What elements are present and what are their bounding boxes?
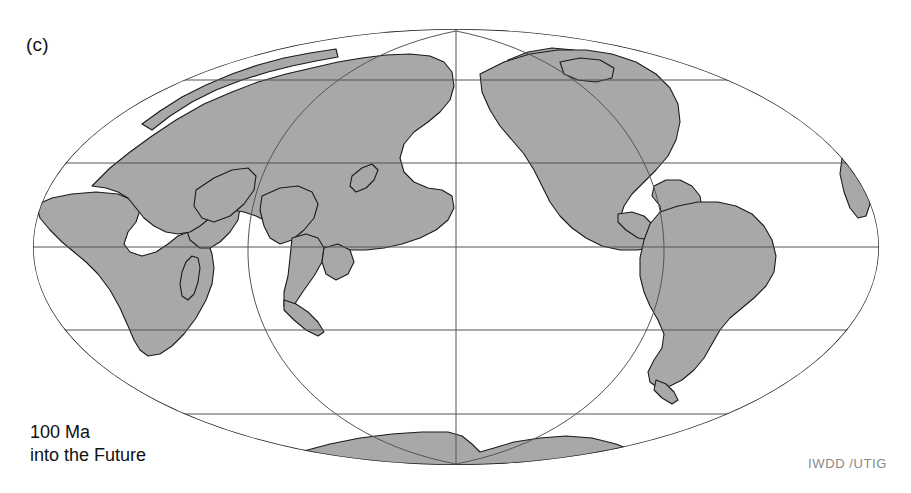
mollweide-world-map [0,0,911,493]
age-caption: 100 Ma into the Future [30,421,146,467]
credit-label: IWDD /UTIG [808,456,887,471]
age-caption-line1: 100 Ma [30,421,146,444]
age-caption-line2: into the Future [30,444,146,467]
land-antarctic-islands [708,428,740,442]
panel-label: (c) [26,34,49,56]
figure-panel: (c) 100 Ma into the Future IWDD /UTIG [0,0,911,493]
